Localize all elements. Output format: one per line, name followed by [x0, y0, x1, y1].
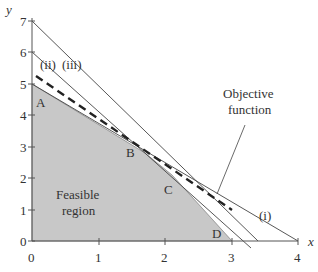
lp-graph: 0 1 2 3 4 5 6 7 0 1 2 3 4 y x A B C D (i…	[0, 0, 318, 272]
point-b-label: B	[126, 145, 135, 160]
objective-label-line1: Objective	[223, 86, 274, 101]
y-tick-1: 1	[20, 203, 27, 218]
y-axis-label: y	[4, 2, 12, 17]
point-a-label: A	[36, 95, 46, 110]
region-label-line1: Feasible	[56, 187, 100, 202]
y-tick-2: 2	[20, 171, 27, 186]
objective-pointer	[217, 125, 245, 194]
x-tick-4: 4	[294, 250, 301, 265]
point-d-label: D	[212, 226, 221, 241]
region-label-line2: region	[62, 203, 96, 218]
line-i-label: (i)	[259, 208, 271, 223]
line-iii-label: (iii)	[62, 57, 82, 72]
y-tick-7: 7	[20, 14, 27, 29]
y-tick-3: 3	[20, 140, 27, 155]
x-tick-3: 3	[228, 250, 235, 265]
x-tick-2: 2	[161, 250, 168, 265]
x-axis-label: x	[307, 234, 314, 249]
x-tick-1: 1	[95, 250, 102, 265]
x-tick-0: 0	[28, 250, 35, 265]
y-tick-0: 0	[20, 234, 27, 249]
y-tick-4: 4	[20, 108, 27, 123]
objective-label-line2: function	[228, 102, 272, 117]
y-tick-5: 5	[20, 77, 27, 92]
point-c-label: C	[164, 182, 173, 197]
y-tick-6: 6	[20, 45, 27, 60]
line-ii-label: (ii)	[40, 57, 56, 72]
